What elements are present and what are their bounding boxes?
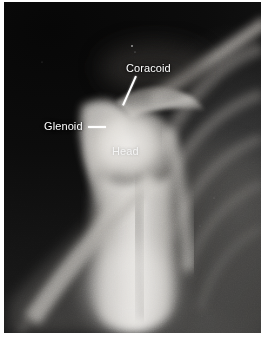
label-glenoid: Glenoid <box>44 120 83 132</box>
soft-tissue-shadow <box>4 2 261 333</box>
film-background <box>4 2 261 333</box>
label-head: Head <box>112 145 139 157</box>
glenoid-leader-dash-icon <box>88 126 106 128</box>
humeral-shaft <box>88 170 182 332</box>
scapular-border-diagonal <box>32 178 154 320</box>
label-coracoid: Coracoid <box>126 62 171 74</box>
soft-tissue-wedge <box>10 198 116 333</box>
clavicle <box>152 22 261 98</box>
bicipital-groove <box>137 178 142 318</box>
scapular-border-edge <box>20 192 144 332</box>
lateral-cortex <box>168 130 188 270</box>
coracoid-leader-line-icon <box>122 76 136 106</box>
bone-anatomy-overlay <box>4 2 261 333</box>
rib-cage <box>160 48 261 310</box>
radiograph-figure: Coracoid Glenoid Head <box>0 0 270 343</box>
chest-wall-shadow <box>114 142 261 333</box>
film-grain <box>4 2 261 333</box>
radiograph-image: Coracoid Glenoid Head <box>4 2 261 333</box>
axillary-highlight <box>86 242 174 333</box>
